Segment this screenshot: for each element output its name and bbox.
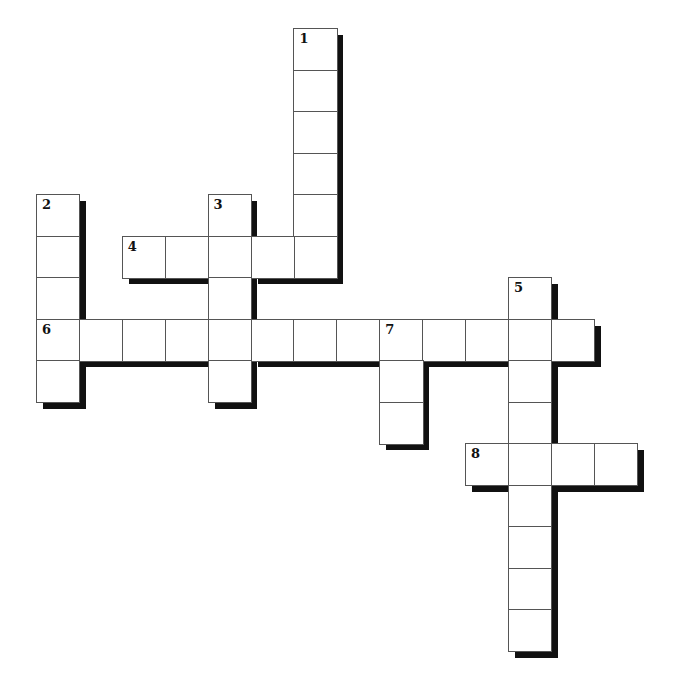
crossword-cell[interactable] (551, 319, 595, 362)
crossword-cell[interactable] (251, 236, 295, 279)
crossword-cell[interactable] (508, 360, 552, 403)
crossword-cell[interactable] (594, 443, 638, 486)
clue-number: 2 (42, 197, 51, 212)
crossword-cell[interactable] (422, 319, 466, 362)
clue-number: 4 (128, 239, 137, 254)
crossword-cell[interactable]: 3 (208, 194, 252, 237)
crossword-cell[interactable] (36, 360, 80, 403)
crossword-cell[interactable] (208, 360, 252, 403)
crossword-cell[interactable] (379, 360, 423, 403)
crossword-cell[interactable] (508, 526, 552, 569)
crossword-cell[interactable] (293, 236, 337, 279)
crossword-cell[interactable] (465, 319, 509, 362)
crossword-cell[interactable] (508, 609, 552, 652)
crossword-cell[interactable] (293, 111, 337, 154)
crossword-cell[interactable] (508, 402, 552, 445)
crossword-cell[interactable] (293, 153, 337, 196)
clue-number: 1 (299, 31, 308, 46)
crossword-cell[interactable] (165, 319, 209, 362)
crossword-cell[interactable] (508, 568, 552, 611)
crossword-cell[interactable] (293, 319, 337, 362)
crossword-cell[interactable] (79, 319, 123, 362)
crossword-cell[interactable] (208, 236, 252, 279)
crossword-cell[interactable] (36, 236, 80, 279)
crossword-cell[interactable] (379, 402, 423, 445)
crossword-grid: 12634578 (0, 0, 677, 689)
crossword-cell[interactable] (293, 194, 337, 237)
crossword-cell[interactable] (208, 277, 252, 320)
crossword-cell[interactable] (165, 236, 209, 279)
crossword-cell[interactable] (293, 70, 337, 113)
clue-number: 5 (514, 280, 523, 295)
crossword-cell[interactable] (336, 319, 380, 362)
crossword-cell[interactable] (208, 319, 252, 362)
crossword-cell[interactable]: 1 (293, 28, 337, 71)
crossword-cell[interactable]: 6 (36, 319, 80, 362)
clue-number: 6 (42, 322, 51, 337)
crossword-cell[interactable] (122, 319, 166, 362)
crossword-cell[interactable] (508, 485, 552, 528)
crossword-cell[interactable] (551, 443, 595, 486)
clue-number: 8 (471, 446, 480, 461)
crossword-cell[interactable] (508, 319, 552, 362)
crossword-cell[interactable]: 5 (508, 277, 552, 320)
crossword-cell[interactable] (36, 277, 80, 320)
crossword-cell[interactable] (251, 319, 295, 362)
crossword-cell[interactable]: 8 (465, 443, 509, 486)
crossword-cell[interactable]: 4 (122, 236, 166, 279)
crossword-cell[interactable]: 2 (36, 194, 80, 237)
clue-number: 7 (385, 322, 394, 337)
crossword-cell[interactable]: 7 (379, 319, 423, 362)
clue-number: 3 (214, 197, 223, 212)
crossword-cell[interactable] (508, 443, 552, 486)
